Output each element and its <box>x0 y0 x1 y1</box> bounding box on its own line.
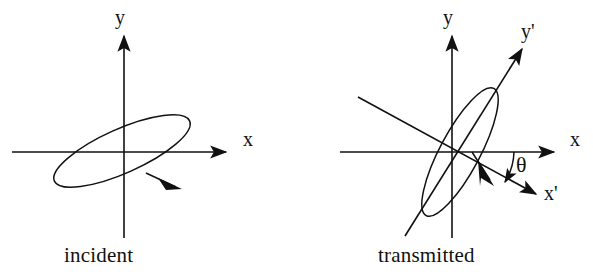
incident-x-axis-label: x <box>243 128 253 151</box>
figure-canvas <box>0 0 593 274</box>
polarization-figure: x y incident x y x' y' θ transmitted <box>0 0 593 274</box>
transmitted-y-prime-axis-label: y' <box>521 20 535 43</box>
transmitted-panel-graphics <box>340 36 554 238</box>
transmitted-caption: transmitted <box>378 243 475 268</box>
incident-panel-graphics <box>12 36 226 238</box>
transmitted-y-axis-label: y <box>443 6 453 29</box>
incident-y-axis-label: y <box>115 6 125 29</box>
theta-angle-label: θ <box>516 152 527 178</box>
transmitted-x-axis-label: x <box>570 128 580 151</box>
transmitted-x-prime-axis-line <box>358 97 536 194</box>
incident-caption: incident <box>64 243 133 268</box>
incident-rotation-direction-tail <box>146 173 176 187</box>
transmitted-x-prime-axis-label: x' <box>544 182 558 205</box>
